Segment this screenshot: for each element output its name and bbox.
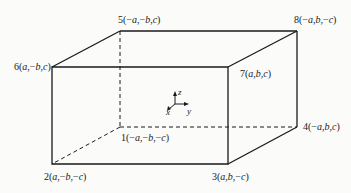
vertex-label-7: 7(a,b,c) (240, 69, 271, 79)
vertex-label-2: 2(a,−b,−c) (44, 172, 86, 182)
edge-8-7 (228, 31, 297, 67)
hidden-edge-1-2 (52, 127, 120, 164)
box-wireframe (0, 0, 351, 193)
vertex-label-5: 5(−a,−b,c) (118, 15, 160, 25)
vertex-label-8: 8(−a,b,−c) (294, 15, 336, 25)
axis-label-z: z (178, 88, 182, 97)
front-face (52, 67, 228, 164)
vertex-label-4: 4(−a,b,c) (303, 122, 340, 132)
edge-4-3 (228, 127, 297, 164)
vertex-label-6: 6(a,−b,c) (14, 62, 51, 72)
box-diagram: z y x 5(−a,−b,c) 8(−a,b,−c) 6(a,−b,c) 7(… (0, 0, 351, 193)
vertex-label-1: 1(−a,−b,−c) (121, 133, 169, 143)
edge-6-5 (52, 31, 120, 67)
axis-label-x: x (166, 108, 170, 117)
vertex-label-3: 3(a,b,−c) (212, 172, 249, 182)
axis-label-y: y (187, 107, 191, 116)
